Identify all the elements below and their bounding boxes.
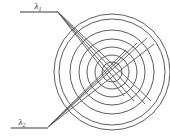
ray-lambda1-3 — [57, 11, 145, 104]
ring-6 — [59, 19, 165, 125]
concentric-rings-group — [54, 14, 170, 130]
diagram-canvas: λ1 λ2 — [0, 0, 170, 139]
label-lambda2-subscript: 2 — [22, 122, 25, 128]
ray-lambda2-4 — [48, 44, 154, 127]
interference-diagram: λ1 λ2 — [0, 0, 170, 139]
label-lambda1: λ1 — [34, 1, 42, 12]
label-lambda2: λ2 — [18, 117, 26, 128]
ring-outer-7 — [54, 14, 170, 130]
ray-lambda1-2 — [57, 11, 134, 101]
label-lambda1-subscript: 1 — [38, 6, 41, 12]
ring-2 — [95, 55, 129, 89]
